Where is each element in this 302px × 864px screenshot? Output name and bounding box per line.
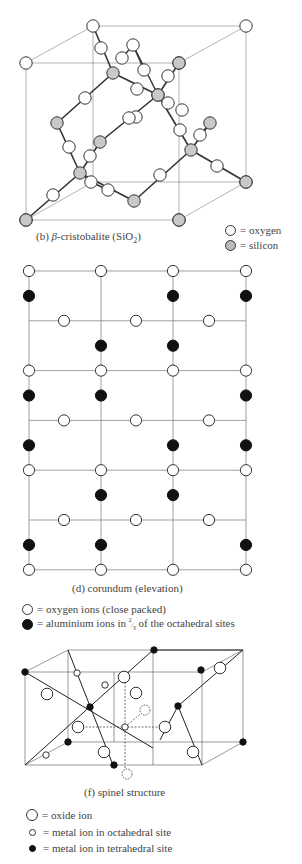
oxygen-ion [167,265,178,276]
aluminium-ion [240,290,251,301]
aluminium-ion [167,290,178,301]
oxygen-ion [203,315,214,326]
aluminium-ion [23,440,34,451]
oxygen-atom [20,57,32,69]
silicon-atom [107,67,119,79]
oxygen-ion [167,365,178,376]
cube-edge [26,182,93,220]
corundum-caption: (d) corundum (elevation) [72,582,183,594]
legend-text: = silicon [240,239,278,251]
oxygen-ion [240,265,251,276]
open-circle-icon [22,604,33,615]
legend-text: = metal ion in octahedral site [43,826,171,838]
octahedral-metal-ion [74,670,80,676]
small-open-circle-icon [29,829,36,836]
oxygen-ion [240,564,251,575]
aluminium-ion [167,440,178,451]
aluminium-ion [95,539,106,550]
aluminium-ion [240,440,251,451]
octahedral-metal-ion [122,724,128,730]
oxygen-atom [85,176,97,188]
tetrahedral-metal-ion [87,704,93,710]
oxygen-ion [130,315,141,326]
oxide-ion [214,662,226,674]
large-open-circle-icon [26,809,38,821]
oxygen-ion [130,514,141,525]
oxygen-atom [174,124,186,136]
oxygen-atom [131,83,143,95]
cristobalite-diagram [20,20,252,226]
oxygen-atom [194,129,206,141]
oxygen-ion [95,465,106,476]
oxygen-atom [87,20,99,32]
oxygen-atom [162,70,174,82]
oxygen-atom [84,150,96,162]
oxygen-atom [102,184,114,196]
bond-line [178,650,243,706]
silicon-atom [240,176,252,188]
oxide-ion [72,721,84,733]
crystal-diagrams [0,0,302,864]
caption-main: -cristobalite (SiO [57,230,133,242]
aluminium-ion [95,490,106,501]
aluminium-ion [23,290,34,301]
aluminium-ion [95,390,106,401]
cube-edge [179,26,246,63]
oxide-ion [41,688,53,700]
oxygen-ion [95,564,106,575]
tetrahedral-metal-ion [65,739,71,745]
octahedral-metal-ion [102,682,108,688]
oxygen-ion [23,465,34,476]
spinel-caption: (f) spinel structure [84,786,165,798]
oxide-ion [187,746,199,758]
oxygen-atom [47,189,59,201]
oxygen-ion [58,514,69,525]
oxygen-ion [167,564,178,575]
silicon-atom [204,117,216,129]
oxygen-atom [154,169,166,181]
silicon-atom [51,117,63,129]
oxygen-atom [79,92,91,104]
legend-text-pre: = aluminium ions in [37,617,129,629]
legend-oxygen: = oxygen [225,224,281,236]
oxygen-ion [130,415,141,426]
legend-text: = oxygen [240,224,281,236]
aluminium-ion [240,539,251,550]
silicon-atom [173,214,185,226]
oxygen-atom [176,104,188,116]
oxygen-atom [138,64,150,76]
silicon-atom [74,167,86,179]
caption-end: ) [137,230,141,242]
aluminium-ion [240,390,251,401]
silicon-atom [20,214,32,226]
oxygen-atom [63,141,75,153]
oxygen-ion [203,415,214,426]
oxide-ion-hidden [140,705,150,715]
tetrahedral-metal-ion [111,762,117,768]
oxygen-ion [23,365,34,376]
filled-circle-icon [22,619,33,630]
oxide-ion [130,687,142,699]
tetrahedral-metal-ion [240,739,246,745]
cristobalite-caption: (b) β-cristobalite (SiO2) [36,230,141,245]
oxygen-ion [203,514,214,525]
cube-edge [179,182,246,220]
oxygen-ion [23,564,34,575]
legend-text: = oxide ion [42,809,92,821]
cell-edge [202,742,243,765]
cell-edge [25,650,68,672]
silicon-atom [128,195,140,207]
oxygen-ion [23,265,34,276]
aluminium-ion [23,539,34,550]
legend-text: = metal ion in tetrahedral site [43,842,172,854]
oxygen-atom [127,39,139,51]
cube-edge [26,26,93,63]
oxygen-atom [116,52,128,64]
oxygen-ion [240,465,251,476]
silicon-atom [185,144,197,156]
oxygen-atom [240,20,252,32]
tetrahedral-metal-ion [198,667,204,673]
aluminium-ion [95,340,106,351]
oxygen-ion [58,415,69,426]
aluminium-ion [23,390,34,401]
